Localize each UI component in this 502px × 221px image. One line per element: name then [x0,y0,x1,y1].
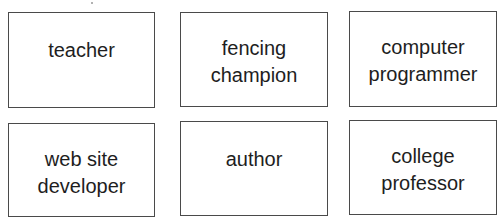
card-line: college [391,145,454,167]
card-line: developer [38,175,126,197]
card-line: programmer [369,63,478,85]
card-line: computer [381,36,464,58]
card-computer-programmer: computer programmer [349,11,497,107]
card-line: champion [211,64,298,86]
card-line: fencing [222,37,287,59]
card-line: teacher [48,39,115,61]
card-college-professor: college professor [349,120,497,215]
scan-artifact [91,2,93,4]
card-line: author [226,148,283,170]
card-author: author [180,121,328,216]
card-web-site-developer: web site developer [8,123,155,217]
card-fencing-champion: fencing champion [180,12,328,107]
card-line: web site [45,148,118,170]
card-teacher: teacher [8,12,155,108]
card-line: professor [381,172,464,194]
